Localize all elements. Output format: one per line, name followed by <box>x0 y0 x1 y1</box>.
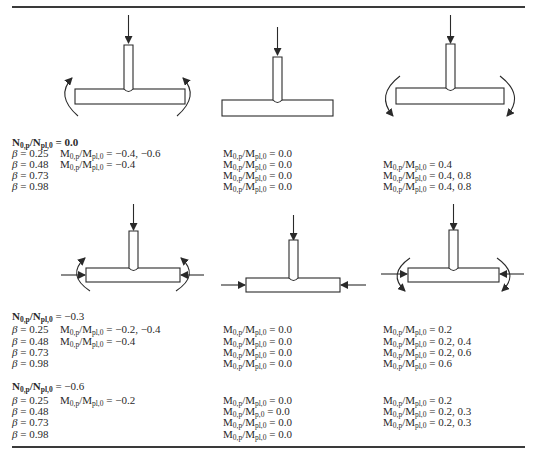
diagram-axial-moment-closing <box>385 15 514 116</box>
diagram-axial-moment-opening <box>65 15 190 116</box>
diagram-axial-chord-compression-moment-closing <box>381 204 524 291</box>
moment-ratio-col1: M0,p/Mpl,0 = −0.4 <box>60 336 135 347</box>
diagram-axial-chord-compression-moment-opening <box>61 204 204 291</box>
beta-label: β = 0.98 <box>12 429 48 440</box>
beta-label: β = 0.25 <box>12 324 48 335</box>
section-header-n-minus-0-3: N0,p/Npl,0 = −0.3 <box>12 311 84 322</box>
moment-ratio-col1: M0,p/Mpl,0 = −0.2 <box>60 395 135 406</box>
moment-ratio-col2: M0,p/Mpl,0 = 0.0 <box>223 324 292 335</box>
moment-ratio-col2: M0,p/Mpl,0 = 0.0 <box>223 417 292 428</box>
diagram-axial-only <box>222 27 333 116</box>
brace <box>289 240 298 281</box>
moment-ratio-col2: M0,p/Mpl,0 = 0.0 <box>223 181 292 192</box>
section-header-n-minus-0-6: N0,p/Npl,0 = −0.6 <box>12 381 84 392</box>
brace <box>124 45 133 92</box>
moment-ratio-col2: M0,p/Mpl,0 = 0.0 <box>223 358 292 369</box>
moment-ratio-col1: M0,p/Mpl,0 = −0.2, −0.4 <box>60 324 161 335</box>
brace <box>129 231 138 271</box>
moment-ratio-col2: M0,p/Mpl,0 = 0.0 <box>223 429 292 440</box>
diagram-axial-chord-compression <box>221 215 366 292</box>
moment-ratio-col3: M0,p/Mpl,0 = 0.2 <box>383 324 452 335</box>
moment-ratio-col1: M0,p/Mpl,0 = −0.4 <box>60 159 135 170</box>
moment-ratio-col3: M0,p/Mpl,0 = 0.2, 0.3 <box>383 417 471 428</box>
moment-ratio-col3: M0,p/Mpl,0 = 0.4, 0.8 <box>383 181 471 192</box>
brace <box>446 44 455 91</box>
beta-label: β = 0.98 <box>12 358 48 369</box>
brace <box>273 57 282 103</box>
brace <box>449 230 458 271</box>
beta-label: β = 0.98 <box>12 181 48 192</box>
moment-ratio-col3: M0,p/Mpl,0 = 0.6 <box>383 358 452 369</box>
beta-label: β = 0.73 <box>12 417 48 428</box>
